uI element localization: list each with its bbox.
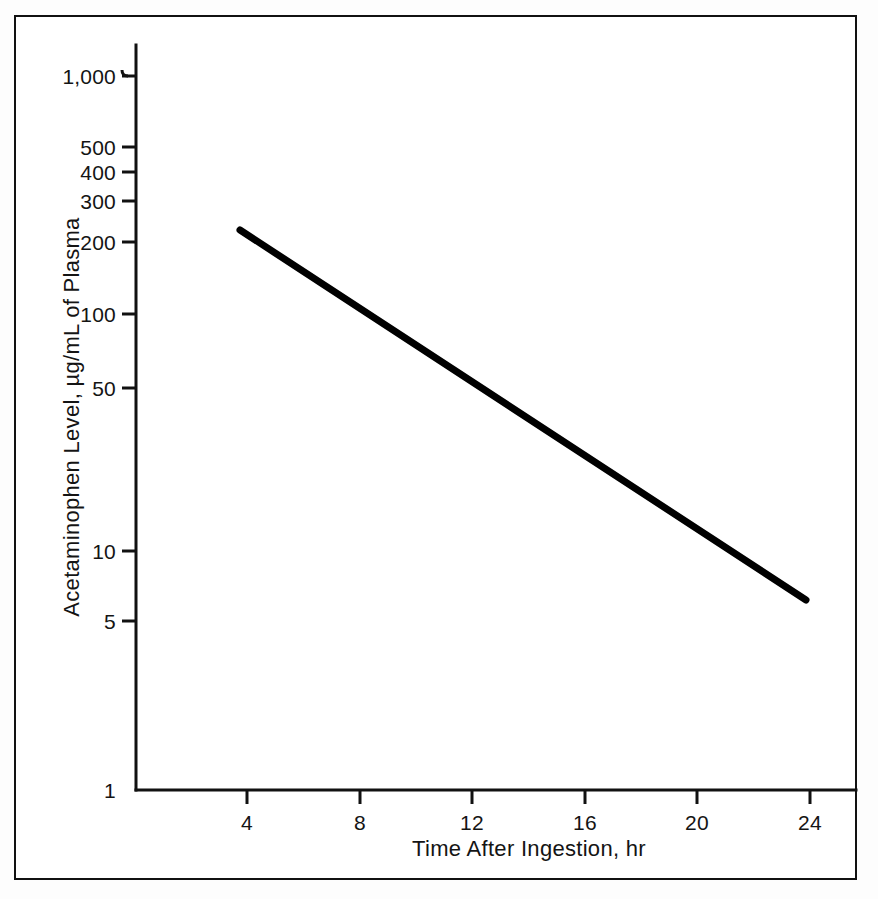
y-tick-label-400: 400 [16,162,116,183]
figure-root: 1,000 500 400 300 200 100 50 10 5 1 4 8 … [0,0,878,899]
y-tick-label-500: 500 [16,137,116,158]
y-tick-label-1000: 1,000 [16,66,116,87]
y-tick-label-300: 300 [16,191,116,212]
x-tick-label-24: 24 [798,812,822,833]
figure-border-frame [14,15,857,880]
x-tick-label-8: 8 [354,812,366,833]
x-tick-label-4: 4 [241,812,253,833]
x-tick-label-12: 12 [460,812,484,833]
y-axis-title: Acetaminophen Level, µg/mL of Plasma [59,217,85,616]
y-tick-label-1: 1 [16,780,116,801]
x-tick-label-20: 20 [685,812,709,833]
x-axis-title: Time After Ingestion, hr [412,836,646,862]
x-tick-label-16: 16 [573,812,597,833]
